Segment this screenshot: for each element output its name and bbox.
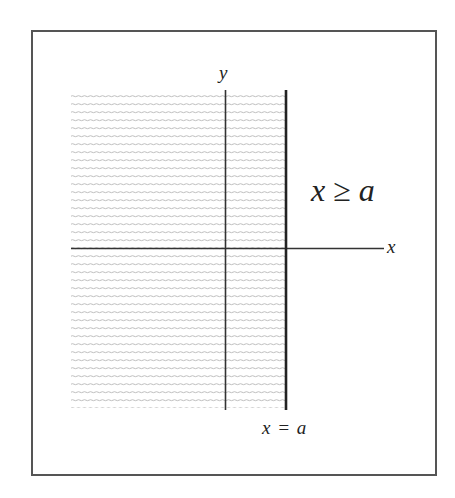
y-axis-label: y bbox=[219, 63, 227, 82]
x-axis-label: x bbox=[387, 237, 395, 256]
boundary-line-label: x = a bbox=[262, 418, 306, 437]
shaded-region bbox=[71, 94, 285, 408]
region-inequality-label: x ≥ a bbox=[311, 174, 375, 206]
